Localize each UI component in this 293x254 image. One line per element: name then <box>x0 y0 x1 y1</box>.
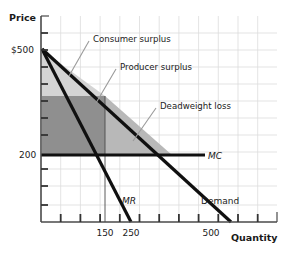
y-axis-title: Price <box>9 12 36 23</box>
demand-curve-label: Demand <box>201 196 239 206</box>
x-tick-label-250: 250 <box>122 228 139 238</box>
economics-chart: Price Quantity $500 200 150 250 500 Cons… <box>0 0 293 254</box>
producer-surplus-label: Producer surplus <box>120 62 193 72</box>
producer-surplus-region <box>42 96 105 155</box>
y-tick-label-500: $500 <box>11 45 34 55</box>
deadweight-loss-label: Deadweight loss <box>160 101 231 111</box>
consumer-surplus-label: Consumer surplus <box>93 34 171 44</box>
x-axis-title: Quantity <box>231 232 278 243</box>
x-tick-label-150: 150 <box>96 228 113 238</box>
mr-curve-label: MR <box>122 196 136 206</box>
monopoly-surplus-figure: Price Quantity $500 200 150 250 500 Cons… <box>0 0 293 254</box>
mc-curve-label: MC <box>208 151 223 161</box>
x-tick-label-500: 500 <box>202 228 219 238</box>
y-tick-label-200: 200 <box>19 150 36 160</box>
